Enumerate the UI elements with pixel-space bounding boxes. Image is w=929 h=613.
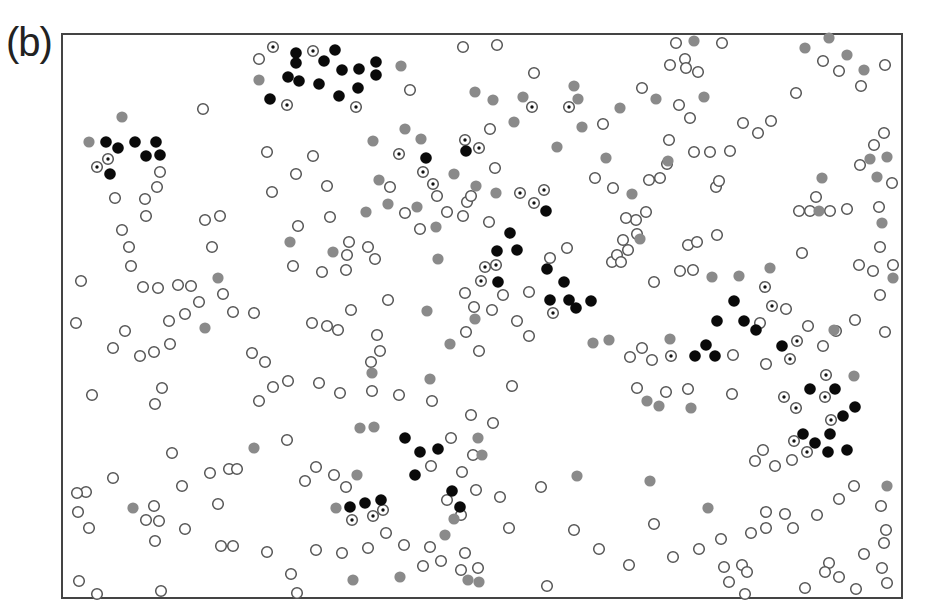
marker-open bbox=[254, 396, 265, 407]
marker-open bbox=[694, 544, 705, 555]
marker-open bbox=[569, 525, 580, 536]
marker-gray bbox=[448, 168, 459, 179]
marker-open bbox=[738, 118, 749, 129]
marker-open bbox=[72, 488, 83, 499]
marker-open bbox=[512, 316, 523, 327]
marker-open bbox=[868, 266, 879, 277]
marker-open bbox=[124, 242, 135, 253]
marker-open bbox=[218, 289, 229, 300]
marker-open bbox=[205, 468, 216, 479]
marker-open bbox=[155, 167, 166, 178]
marker-open bbox=[442, 207, 453, 218]
marker-open bbox=[791, 88, 802, 99]
marker-open bbox=[87, 390, 98, 401]
marker-gray bbox=[508, 116, 519, 127]
marker-open bbox=[851, 584, 862, 595]
marker-black bbox=[414, 446, 426, 458]
marker-open bbox=[753, 128, 764, 139]
marker-open bbox=[381, 528, 392, 539]
marker-black bbox=[318, 55, 330, 67]
marker-open bbox=[812, 510, 823, 521]
marker-open bbox=[881, 525, 892, 536]
marker-open bbox=[887, 178, 898, 189]
marker-open bbox=[383, 295, 394, 306]
marker-open bbox=[849, 481, 860, 492]
marker-black bbox=[333, 90, 345, 102]
marker-open bbox=[291, 169, 302, 180]
marker-gray bbox=[212, 272, 223, 283]
marker-open bbox=[842, 204, 853, 215]
marker-black bbox=[585, 295, 597, 307]
marker-dotted-center bbox=[494, 263, 497, 266]
marker-open bbox=[689, 147, 700, 158]
marker-black bbox=[344, 501, 356, 513]
marker-gray bbox=[470, 180, 481, 191]
marker-open bbox=[394, 390, 405, 401]
marker-dotted-center bbox=[371, 514, 374, 517]
marker-open bbox=[164, 316, 175, 327]
marker-open bbox=[504, 523, 515, 534]
marker-black bbox=[544, 294, 556, 306]
marker-black bbox=[460, 145, 472, 157]
marker-open bbox=[524, 287, 535, 298]
marker-dotted-center bbox=[530, 105, 533, 108]
marker-open bbox=[461, 327, 472, 338]
marker-dotted-center bbox=[463, 138, 466, 141]
marker-open bbox=[855, 160, 866, 171]
marker-gray bbox=[664, 333, 675, 344]
marker-open bbox=[120, 326, 131, 337]
marker-gray bbox=[253, 74, 264, 85]
marker-open bbox=[288, 261, 299, 272]
marker-open bbox=[180, 309, 191, 320]
marker-open bbox=[485, 124, 496, 135]
marker-open bbox=[877, 563, 888, 574]
marker-open bbox=[490, 163, 501, 174]
marker-open bbox=[665, 60, 676, 71]
marker-gray bbox=[476, 449, 487, 460]
marker-gray bbox=[487, 94, 498, 105]
marker-gray bbox=[698, 91, 709, 102]
marker-open bbox=[854, 260, 865, 271]
marker-open bbox=[154, 516, 165, 527]
marker-open bbox=[311, 545, 322, 556]
marker-open bbox=[150, 399, 161, 410]
marker-dotted-center bbox=[823, 395, 826, 398]
marker-open bbox=[325, 212, 336, 223]
marker-open bbox=[322, 181, 333, 192]
marker-open bbox=[260, 357, 271, 368]
marker-black bbox=[541, 263, 553, 275]
marker-gray bbox=[662, 155, 673, 166]
marker-open bbox=[688, 265, 699, 276]
marker-dotted-center bbox=[782, 395, 785, 398]
marker-open bbox=[400, 208, 411, 219]
marker-gray bbox=[823, 32, 834, 43]
marker-black bbox=[352, 82, 364, 94]
marker-gray bbox=[685, 402, 696, 413]
marker-open bbox=[647, 355, 658, 366]
marker-open bbox=[180, 524, 191, 535]
marker-open bbox=[818, 56, 829, 67]
marker-gray bbox=[733, 270, 744, 281]
marker-gray bbox=[490, 187, 501, 198]
marker-open bbox=[460, 288, 471, 299]
marker-black bbox=[511, 244, 523, 256]
marker-gray bbox=[644, 475, 655, 486]
marker-open bbox=[458, 42, 469, 53]
marker-open bbox=[507, 381, 518, 392]
marker-dotted-center bbox=[669, 354, 672, 357]
marker-black bbox=[728, 295, 740, 307]
marker-dotted-center bbox=[805, 450, 808, 453]
marker-dotted-center bbox=[829, 418, 832, 421]
marker-open bbox=[834, 66, 845, 77]
marker-black bbox=[104, 168, 116, 180]
marker-dotted-center bbox=[763, 285, 766, 288]
marker-open bbox=[173, 280, 184, 291]
marker-gray bbox=[881, 151, 892, 162]
marker-open bbox=[283, 376, 294, 387]
marker-open bbox=[498, 290, 509, 301]
marker-black bbox=[399, 432, 411, 444]
marker-gray bbox=[439, 529, 450, 540]
marker-open bbox=[882, 578, 893, 589]
marker-open bbox=[110, 193, 121, 204]
marker-open bbox=[367, 386, 378, 397]
